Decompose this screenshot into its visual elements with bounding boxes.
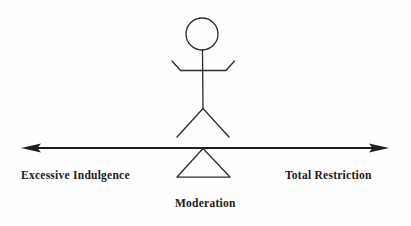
diagram-canvas: Excessive Indulgence Total Restriction M… [0,0,411,226]
stick-figure [172,18,235,137]
axis-label-right: Total Restriction [285,170,372,182]
axis-label-center: Moderation [175,198,236,210]
balance-scale-diagram [0,0,411,226]
figure-legs [177,109,229,138]
axis-label-left: Excessive Indulgence [21,170,130,182]
figure-head-icon [186,18,218,50]
figure-torso [203,50,204,109]
fulcrum-triangle [177,149,230,178]
